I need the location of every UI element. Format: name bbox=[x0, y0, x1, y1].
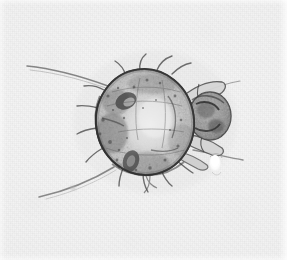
image-top-edge-lightening bbox=[0, 0, 287, 5]
image-right-edge-lightening bbox=[279, 0, 287, 260]
image-bottom-edge-lightening bbox=[0, 254, 287, 260]
image-left-edge-lightening bbox=[0, 0, 6, 260]
background-fleck bbox=[70, 186, 76, 191]
mite-specimen bbox=[0, 0, 287, 260]
photomicrograph-viewport: mite bbox=[0, 0, 287, 260]
